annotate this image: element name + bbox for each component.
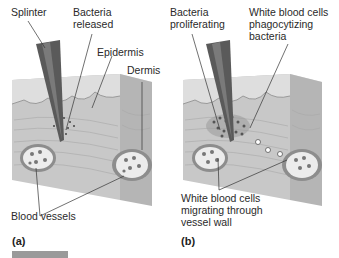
label-bacteria-released: Bacteria released (73, 6, 113, 30)
label-bacteria-proliferating: Bacteria proliferating (170, 6, 225, 30)
caption-bar (12, 251, 68, 258)
label-wbc-phagocytizing: White blood cells phagocytizing bacteria (249, 6, 328, 42)
label-wbc-migrating: White blood cells migrating through vess… (181, 192, 263, 228)
label-splinter: Splinter (11, 6, 47, 18)
panel-label-b: (b) (181, 235, 195, 247)
label-blood-vessels: Blood vessels (11, 210, 76, 222)
label-dermis: Dermis (127, 64, 160, 76)
panel-label-a: (a) (12, 235, 25, 247)
label-epidermis: Epidermis (97, 46, 144, 58)
